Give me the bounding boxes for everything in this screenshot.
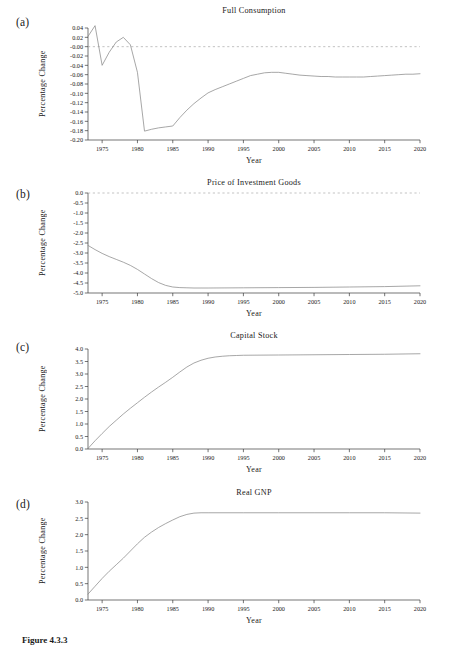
svg-text:-3.0: -3.0: [73, 249, 83, 256]
svg-text:3.0: 3.0: [75, 498, 83, 505]
svg-text:-0.16: -0.16: [70, 118, 83, 125]
svg-text:1980: 1980: [131, 454, 143, 461]
svg-text:1995: 1995: [237, 454, 249, 461]
svg-text:-0.00: -0.00: [70, 43, 83, 50]
svg-text:1.0: 1.0: [75, 420, 83, 427]
svg-text:1990: 1990: [202, 298, 214, 305]
svg-text:1990: 1990: [202, 145, 214, 152]
svg-text:1980: 1980: [131, 145, 143, 152]
svg-text:1980: 1980: [131, 298, 143, 305]
svg-text:1975: 1975: [96, 454, 108, 461]
svg-text:2.5: 2.5: [75, 515, 83, 522]
svg-text:2015: 2015: [378, 145, 390, 152]
svg-text:1990: 1990: [202, 605, 214, 612]
svg-text:-0.18: -0.18: [70, 127, 83, 134]
svg-text:-0.10: -0.10: [70, 90, 83, 97]
svg-text:-4.5: -4.5: [73, 279, 83, 286]
svg-text:2000: 2000: [273, 298, 285, 305]
svg-text:1975: 1975: [96, 605, 108, 612]
svg-text:0.04: 0.04: [72, 24, 83, 31]
svg-text:-0.14: -0.14: [70, 108, 83, 115]
svg-text:3.0: 3.0: [75, 370, 83, 377]
svg-text:-2.5: -2.5: [73, 239, 83, 246]
chart-panel-b: (b) Price of Investment Goods Percentage…: [0, 172, 450, 325]
svg-text:-0.04: -0.04: [70, 62, 83, 69]
chart-panel-a: (a) Full Consumption Percentage Change Y…: [0, 0, 450, 172]
svg-text:0.0: 0.0: [75, 445, 83, 452]
svg-text:0.5: 0.5: [75, 580, 83, 587]
svg-text:1.0: 1.0: [75, 564, 83, 571]
svg-text:2010: 2010: [343, 605, 355, 612]
svg-text:2010: 2010: [343, 454, 355, 461]
svg-text:1985: 1985: [167, 454, 179, 461]
svg-text:2020: 2020: [414, 298, 426, 305]
svg-text:-2.0: -2.0: [73, 229, 83, 236]
svg-text:3.5: 3.5: [75, 358, 83, 365]
svg-text:2020: 2020: [414, 605, 426, 612]
svg-text:-1.5: -1.5: [73, 219, 83, 226]
svg-text:1975: 1975: [96, 298, 108, 305]
svg-text:0.0: 0.0: [75, 596, 83, 603]
svg-text:-0.06: -0.06: [70, 71, 83, 78]
svg-text:-0.20: -0.20: [70, 136, 83, 143]
svg-text:2020: 2020: [414, 145, 426, 152]
svg-text:1980: 1980: [131, 605, 143, 612]
svg-text:2.0: 2.0: [75, 395, 83, 402]
svg-text:2000: 2000: [273, 454, 285, 461]
svg-text:2010: 2010: [343, 145, 355, 152]
svg-text:1995: 1995: [237, 298, 249, 305]
svg-text:0.5: 0.5: [75, 433, 83, 440]
svg-text:0.02: 0.02: [72, 34, 83, 41]
svg-text:1990: 1990: [202, 454, 214, 461]
svg-text:-0.5: -0.5: [73, 199, 83, 206]
svg-text:2.5: 2.5: [75, 383, 83, 390]
svg-text:-0.12: -0.12: [70, 99, 83, 106]
chart-panel-d: (d) Real GNP Percentage Change Year 0.00…: [0, 482, 450, 632]
svg-text:2015: 2015: [378, 605, 390, 612]
svg-text:2.0: 2.0: [75, 531, 83, 538]
svg-text:2000: 2000: [273, 605, 285, 612]
svg-text:2005: 2005: [308, 605, 320, 612]
svg-text:2020: 2020: [414, 454, 426, 461]
svg-text:1985: 1985: [167, 605, 179, 612]
svg-text:1.5: 1.5: [75, 408, 83, 415]
plot-area-a: 0.040.02-0.00-0.02-0.04-0.06-0.08-0.10-0…: [0, 0, 450, 172]
svg-text:-4.0: -4.0: [73, 269, 83, 276]
svg-text:1.5: 1.5: [75, 547, 83, 554]
plot-area-b: 0.0-0.5-1.0-1.5-2.0-2.5-3.0-3.5-4.0-4.5-…: [0, 172, 450, 325]
svg-text:1975: 1975: [96, 145, 108, 152]
plot-area-d: 0.00.51.01.52.02.53.01975198019851990199…: [0, 482, 450, 632]
svg-text:-5.0: -5.0: [73, 289, 83, 296]
svg-text:4.0: 4.0: [75, 345, 83, 352]
svg-text:1985: 1985: [167, 145, 179, 152]
svg-text:1985: 1985: [167, 298, 179, 305]
svg-text:2005: 2005: [308, 454, 320, 461]
svg-text:1995: 1995: [237, 605, 249, 612]
svg-text:1995: 1995: [237, 145, 249, 152]
svg-text:-0.02: -0.02: [70, 52, 83, 59]
svg-text:2010: 2010: [343, 298, 355, 305]
svg-text:2015: 2015: [378, 298, 390, 305]
svg-text:-3.5: -3.5: [73, 259, 83, 266]
svg-text:-0.08: -0.08: [70, 80, 83, 87]
svg-text:-1.0: -1.0: [73, 209, 83, 216]
svg-text:2000: 2000: [273, 145, 285, 152]
plot-area-c: 0.00.51.01.52.02.53.03.54.01975198019851…: [0, 325, 450, 482]
chart-panel-c: (c) Capital Stock Percentage Change Year…: [0, 325, 450, 482]
svg-text:2005: 2005: [308, 298, 320, 305]
figure-caption: Figure 4.3.3: [22, 635, 68, 645]
svg-text:2015: 2015: [378, 454, 390, 461]
svg-text:0.0: 0.0: [75, 189, 83, 196]
svg-text:2005: 2005: [308, 145, 320, 152]
